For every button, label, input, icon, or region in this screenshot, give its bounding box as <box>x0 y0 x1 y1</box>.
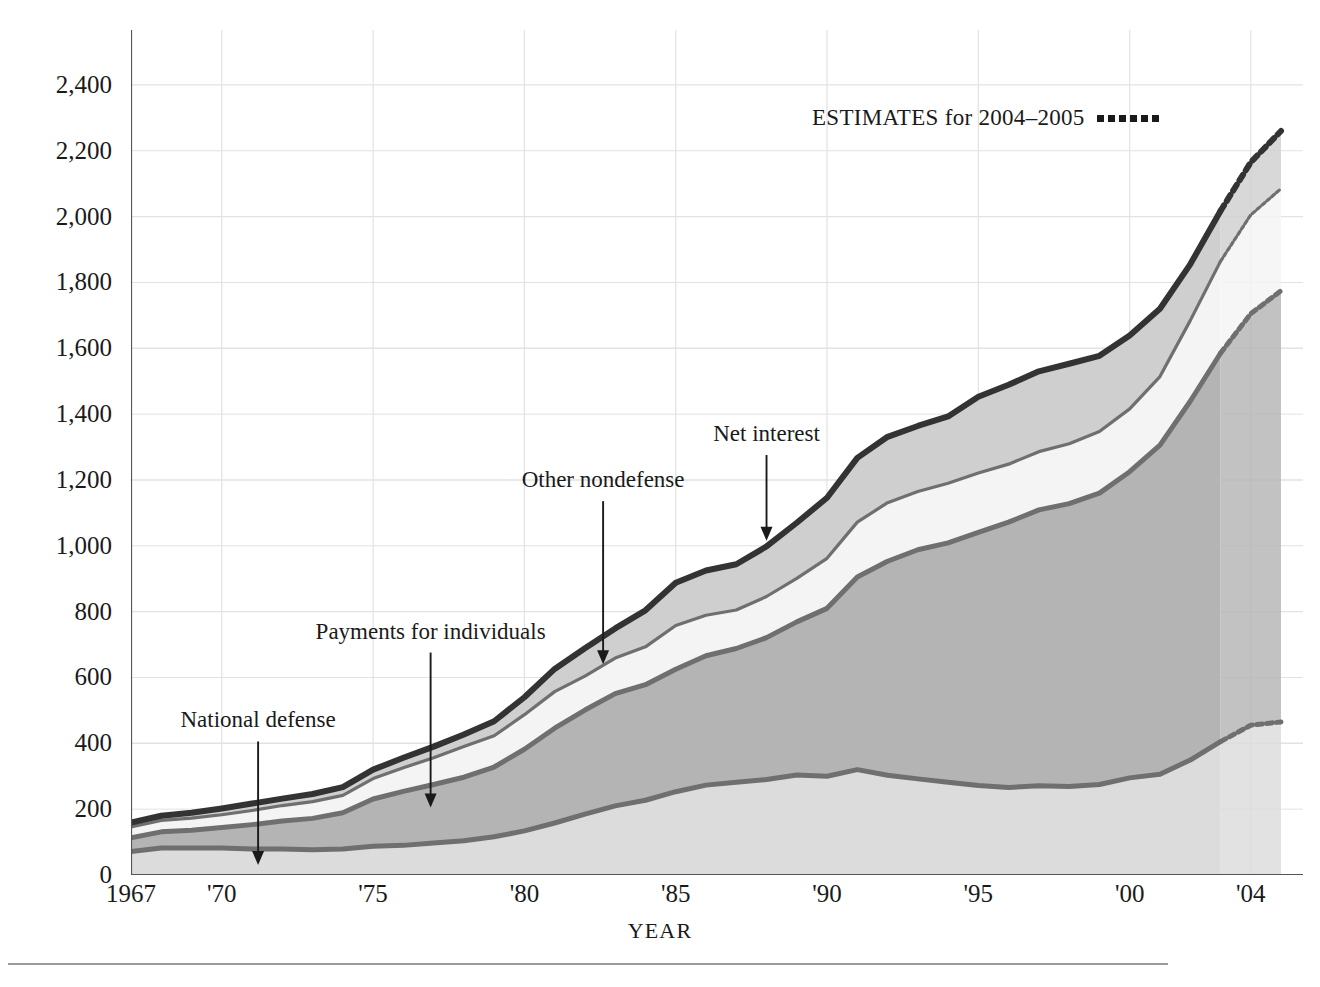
stacked-area-svg <box>131 30 1303 875</box>
area-bands <box>131 131 1281 875</box>
plot-area <box>131 30 1303 875</box>
estimates-legend: ESTIMATES for 2004–2005 <box>812 105 1159 131</box>
footer-rule <box>8 963 1168 965</box>
x-tick-1970: '70 <box>207 880 237 908</box>
annotation-net_interest: Net interest <box>713 421 820 447</box>
band-estimate-payments_for_individuals <box>1220 291 1281 742</box>
x-tick-2000: '00 <box>1115 880 1145 908</box>
x-tick-1980: '80 <box>510 880 540 908</box>
band-estimate-national_defense <box>1220 722 1281 875</box>
x-tick-1990: '90 <box>812 880 842 908</box>
annotation-national_defense: National defense <box>181 707 336 733</box>
x-tick-2004: '04 <box>1236 880 1266 908</box>
dotted-line-swatch <box>1097 111 1159 125</box>
annotation-payments_for_individuals: Payments for individuals <box>316 619 546 645</box>
legend-label: ESTIMATES for 2004–2005 <box>812 105 1085 131</box>
x-tick-1985: '85 <box>661 880 691 908</box>
chart-figure: BILLIONS OF DOLLARS YEAR 02004006008001,… <box>0 0 1320 987</box>
annotation-other_nondefense: Other nondefense <box>522 467 685 493</box>
x-tick-1995: '95 <box>964 880 994 908</box>
x-tick-1967: 1967 <box>106 880 156 908</box>
x-tick-1975: '75 <box>358 880 388 908</box>
